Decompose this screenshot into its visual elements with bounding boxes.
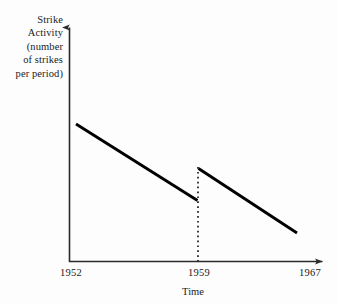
y-axis-title-line-3: (number: [0, 40, 63, 53]
x-axis-tick-label-1952: 1952: [50, 266, 92, 279]
y-axis-title: Strike Activity (number of strikes per p…: [0, 13, 63, 80]
x-axis-tick-label-1967: 1967: [289, 266, 331, 279]
y-axis-title-line-4: of strikes: [0, 53, 63, 66]
series-line-pre-intervention: [76, 124, 198, 201]
x-axis-tick-label-1959: 1959: [178, 266, 220, 279]
strike-activity-chart: Strike Activity (number of strikes per p…: [0, 0, 337, 304]
y-axis-title-line-2: Activity: [0, 26, 63, 39]
y-axis-title-line-5: per period): [0, 67, 63, 80]
series-line-post-intervention: [199, 169, 298, 234]
x-axis-title: Time: [162, 285, 224, 298]
y-axis-title-line-1: Strike: [0, 13, 63, 26]
